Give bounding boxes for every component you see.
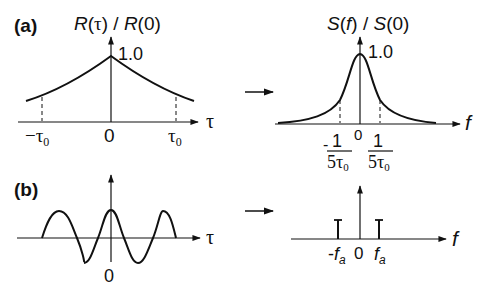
panel-b-label: (b) bbox=[14, 179, 38, 200]
svg-text:1: 1 bbox=[332, 131, 342, 151]
panel-b-right-plot bbox=[291, 186, 446, 239]
autocorrelation-curve bbox=[26, 56, 194, 101]
panel-b-left-plot bbox=[17, 175, 200, 263]
tick-pos-fa: fa bbox=[374, 244, 386, 267]
tick-neg-fraction: - 1 5τ0 bbox=[323, 131, 352, 173]
figure-canvas: (a) R(τ) / R(0) 1.0 τ −τ0 0 τ0 S(f) / S(… bbox=[0, 0, 488, 300]
f-axis-symbol: f bbox=[465, 111, 473, 134]
tick-neg-fa: -fa bbox=[328, 244, 346, 267]
panel-a-label: (a) bbox=[14, 15, 37, 36]
f-axis-symbol-b: f bbox=[452, 227, 460, 250]
tau-axis-symbol: τ bbox=[206, 110, 214, 132]
r-axis-title: R(τ) / R(0) bbox=[74, 13, 161, 34]
tick-neg-tau0: −τ0 bbox=[25, 125, 49, 149]
svg-text:5τ0: 5τ0 bbox=[368, 152, 390, 173]
cosine-curve bbox=[42, 210, 176, 263]
tick-pos-fraction: 1 5τ0 bbox=[368, 131, 393, 173]
peak-label-left: 1.0 bbox=[118, 44, 143, 64]
zero-label-b-left: 0 bbox=[104, 266, 114, 286]
zero-label-b-right: 0 bbox=[354, 244, 363, 263]
tau-axis-symbol-b: τ bbox=[206, 226, 214, 248]
panel-a-left-plot bbox=[18, 37, 198, 122]
lorentzian-curve bbox=[278, 54, 436, 123]
tick-zero-left: 0 bbox=[104, 125, 115, 146]
tick-zero-right: 0 bbox=[354, 126, 362, 143]
s-axis-title: S(f) / S(0) bbox=[327, 13, 409, 34]
svg-text:5τ0: 5τ0 bbox=[327, 152, 349, 173]
svg-text:1: 1 bbox=[373, 131, 383, 151]
tick-tau0: τ0 bbox=[168, 125, 182, 149]
peak-label-right: 1.0 bbox=[368, 42, 393, 62]
